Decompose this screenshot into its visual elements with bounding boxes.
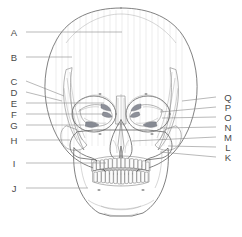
label-A: A bbox=[11, 27, 18, 38]
label-D: D bbox=[11, 87, 18, 98]
leader-line-M bbox=[132, 137, 216, 141]
mental-foramen-left bbox=[97, 189, 100, 191]
orbit-right bbox=[126, 95, 170, 132]
label-B: B bbox=[11, 52, 17, 63]
leader-line-L bbox=[168, 146, 216, 147]
orbit-left bbox=[72, 95, 116, 132]
skull-anatomy-figure: A B C D E F G H I J Q P O N M L K bbox=[0, 0, 242, 237]
leader-line-Q bbox=[182, 97, 216, 101]
mandible-lower-contour bbox=[88, 200, 154, 209]
infraorbital-foramen-right bbox=[150, 133, 153, 135]
label-group-right: Q P O N M L K bbox=[224, 92, 232, 163]
skull-illustration bbox=[45, 8, 197, 216]
leader-line-N bbox=[160, 127, 216, 128]
skull-diagram-page: A B C D E F G H I J Q P O N M L K bbox=[0, 0, 242, 237]
label-C: C bbox=[11, 76, 18, 87]
supraorbital-notch-left bbox=[99, 93, 102, 95]
supraorbital-notch-right bbox=[145, 93, 148, 95]
label-J: J bbox=[12, 183, 17, 194]
label-F: F bbox=[11, 109, 17, 120]
label-K: K bbox=[225, 152, 232, 163]
label-E: E bbox=[11, 98, 17, 109]
label-H: H bbox=[11, 135, 18, 146]
label-I: I bbox=[13, 158, 16, 169]
infraorbital-foramen-left bbox=[98, 133, 101, 135]
label-G: G bbox=[10, 120, 17, 131]
nasal-aperture bbox=[110, 120, 132, 160]
mental-foramen-right bbox=[141, 189, 144, 191]
label-group-left: A B C D E F G H I J bbox=[10, 27, 18, 194]
